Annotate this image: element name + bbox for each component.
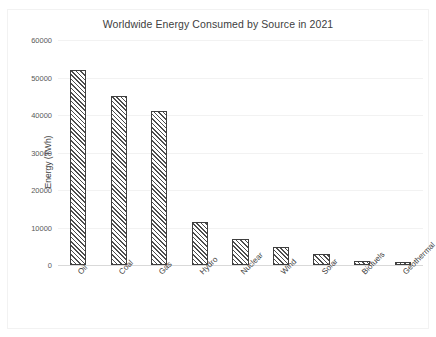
bar-slot — [58, 40, 99, 265]
bar-hydro[interactable] — [192, 222, 208, 265]
bar-slot — [180, 40, 221, 265]
bar-slot — [261, 40, 302, 265]
y-axis-tick-label: 20000 — [31, 186, 52, 195]
bar-slot — [99, 40, 140, 265]
bar-slot — [220, 40, 261, 265]
chart-title: Worldwide Energy Consumed by Source in 2… — [8, 18, 428, 30]
bar-slot — [301, 40, 342, 265]
y-axis-tick-label: 30000 — [31, 148, 52, 157]
bar-gas[interactable] — [151, 111, 167, 265]
bar-slot — [139, 40, 180, 265]
y-axis-title: Energy (TWh) — [43, 136, 53, 189]
bar-series — [58, 40, 423, 265]
plot-area: 0100002000030000400005000060000 OilCoalG… — [58, 40, 423, 265]
y-axis-tick-label: 60000 — [31, 36, 52, 45]
y-axis-tick-label: 10000 — [31, 223, 52, 232]
y-axis-tick-label: 50000 — [31, 73, 52, 82]
bar-coal[interactable] — [111, 96, 127, 265]
y-axis-tick-label: 0 — [48, 261, 52, 270]
y-axis-tick-label: 40000 — [31, 111, 52, 120]
bar-oil[interactable] — [70, 70, 86, 265]
bar-slot — [382, 40, 423, 265]
chart-frame: Worldwide Energy Consumed by Source in 2… — [7, 9, 429, 329]
bar-slot — [342, 40, 383, 265]
